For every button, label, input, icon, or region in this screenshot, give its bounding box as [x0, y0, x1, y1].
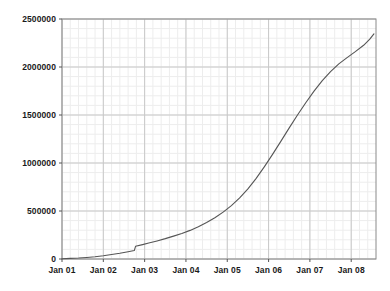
y-axis-tick-label: 2500000	[22, 14, 56, 24]
x-axis-tick-label: Jan 05	[214, 265, 241, 275]
y-axis-tick-label: 1000000	[22, 158, 56, 168]
data-series-line	[62, 34, 374, 259]
x-axis-tick-label: Jan 02	[90, 265, 117, 275]
y-axis-tick-label: 500000	[27, 206, 56, 216]
y-axis-tick-label: 1500000	[22, 110, 56, 120]
x-axis-tick-label: Jan 07	[296, 265, 323, 275]
chart-container: 05000001000000150000020000002500000 Jan …	[0, 0, 390, 291]
line-chart-plot	[0, 0, 390, 291]
x-axis-tick-label: Jan 04	[172, 265, 199, 275]
minor-gridlines	[62, 19, 376, 259]
x-axis-tick-label: Jan 03	[131, 265, 158, 275]
y-axis-tick-label: 2000000	[22, 62, 56, 72]
y-axis-tick-label: 0	[51, 254, 56, 264]
x-axis-tick-label: Jan 06	[255, 265, 282, 275]
x-axis-tick-label: Jan 01	[48, 265, 75, 275]
x-axis-tick-label: Jan 08	[338, 265, 365, 275]
